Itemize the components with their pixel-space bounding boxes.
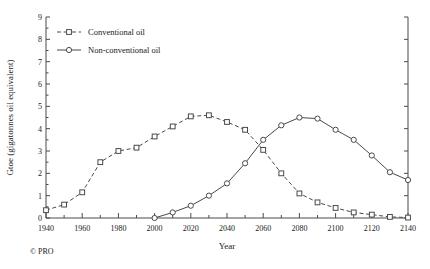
x-tick-label: 2020 bbox=[183, 224, 199, 233]
legend-item-2[interactable]: Non-conventional oil bbox=[57, 45, 161, 55]
x-tick-label: 2080 bbox=[291, 224, 307, 233]
y-tick-label: 2 bbox=[38, 169, 42, 178]
legend-label: Conventional oil bbox=[88, 27, 146, 37]
x-tick-label: 1980 bbox=[110, 224, 126, 233]
data-point bbox=[188, 203, 193, 208]
x-tick-label: 1960 bbox=[74, 224, 90, 233]
data-point bbox=[224, 181, 229, 186]
y-tick-label: 7 bbox=[38, 58, 42, 67]
data-point bbox=[297, 191, 302, 196]
data-point bbox=[170, 124, 175, 129]
data-point bbox=[279, 123, 284, 128]
y-tick-label: 1 bbox=[38, 192, 42, 201]
x-tick-label: 2120 bbox=[364, 224, 380, 233]
x-axis-title: Year bbox=[219, 241, 236, 251]
data-point bbox=[225, 120, 230, 125]
data-point bbox=[188, 114, 193, 119]
y-axis-title: Gtoe (gigatonnes oil equivalent) bbox=[5, 59, 15, 175]
data-point bbox=[279, 171, 284, 176]
data-point bbox=[405, 177, 410, 182]
data-point bbox=[297, 115, 302, 120]
data-point bbox=[206, 193, 211, 198]
y-tick-label: 5 bbox=[38, 102, 42, 111]
oil-production-chart: 0123456789194019601980200020202040206020… bbox=[0, 0, 430, 269]
y-tick-label: 8 bbox=[38, 35, 42, 44]
data-point bbox=[261, 137, 266, 142]
legend-item-1[interactable]: Conventional oil bbox=[57, 27, 146, 37]
legend-marker bbox=[66, 47, 71, 52]
data-point bbox=[243, 161, 248, 166]
x-tick-label: 2140 bbox=[400, 224, 416, 233]
y-tick-label: 3 bbox=[38, 147, 42, 156]
data-point bbox=[207, 113, 212, 118]
data-point bbox=[388, 214, 393, 219]
data-point bbox=[170, 210, 175, 215]
data-point bbox=[243, 127, 248, 132]
y-tick-label: 0 bbox=[38, 214, 42, 223]
legend-marker bbox=[67, 30, 72, 35]
data-point bbox=[333, 127, 338, 132]
data-point bbox=[134, 145, 139, 150]
data-point bbox=[315, 116, 320, 121]
data-point bbox=[351, 137, 356, 142]
data-point bbox=[116, 149, 121, 154]
data-point bbox=[387, 170, 392, 175]
data-point bbox=[315, 200, 320, 205]
data-point bbox=[62, 202, 67, 207]
data-point bbox=[152, 215, 157, 220]
series-2 bbox=[152, 115, 411, 221]
data-point bbox=[406, 215, 411, 220]
data-point bbox=[369, 153, 374, 158]
x-tick-label: 1940 bbox=[38, 224, 54, 233]
data-point bbox=[80, 190, 85, 195]
data-point bbox=[351, 210, 356, 215]
x-tick-label: 2000 bbox=[147, 224, 163, 233]
y-tick-label: 9 bbox=[38, 13, 42, 22]
data-point bbox=[369, 212, 374, 217]
x-tick-label: 2040 bbox=[219, 224, 235, 233]
data-point bbox=[98, 160, 103, 165]
series-1 bbox=[44, 113, 411, 220]
y-tick-label: 6 bbox=[38, 80, 42, 89]
data-point bbox=[44, 208, 49, 213]
series-path bbox=[155, 118, 408, 219]
data-point bbox=[333, 206, 338, 211]
x-tick-label: 2060 bbox=[255, 224, 271, 233]
data-point bbox=[152, 134, 157, 139]
chart-container: 0123456789194019601980200020202040206020… bbox=[0, 0, 430, 269]
y-tick-label: 4 bbox=[38, 125, 42, 134]
data-point bbox=[261, 147, 266, 152]
legend-label: Non-conventional oil bbox=[88, 45, 161, 55]
series-path bbox=[46, 115, 408, 217]
x-tick-label: 2100 bbox=[328, 224, 344, 233]
